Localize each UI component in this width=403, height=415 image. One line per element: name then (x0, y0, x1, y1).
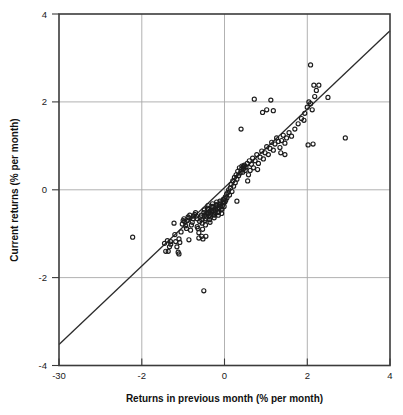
data-point (131, 235, 135, 239)
scatter-chart-figure: -30 -2 0 2 4 4 2 0 -2 -4 Returns in prev… (0, 0, 403, 415)
chart-canvas: -30 -2 0 2 4 4 2 0 -2 -4 Returns in prev… (0, 0, 403, 415)
data-point (252, 97, 256, 101)
data-point (251, 166, 255, 170)
data-point (184, 226, 188, 230)
data-point (189, 228, 193, 232)
data-point (314, 88, 318, 92)
y-tick-label-1: -2 (39, 272, 47, 283)
data-point (256, 161, 260, 165)
data-point (179, 230, 183, 234)
data-point (317, 83, 321, 87)
x-tick-label-3: 2 (305, 370, 310, 381)
data-point (271, 109, 275, 113)
data-point (306, 143, 310, 147)
data-point (283, 153, 287, 157)
data-point (256, 167, 260, 171)
data-point (172, 221, 176, 225)
data-point (261, 110, 265, 114)
data-point (235, 199, 239, 203)
data-point (278, 146, 282, 150)
data-point (309, 63, 313, 67)
x-tick-label-2: 0 (222, 370, 227, 381)
data-point (311, 142, 315, 146)
data-point (312, 83, 316, 87)
x-axis-title: Returns in previous month (% per month) (126, 393, 323, 404)
data-point (246, 179, 250, 183)
x-tick-label-0: -30 (52, 370, 66, 381)
data-point (265, 108, 269, 112)
data-point (202, 289, 206, 293)
y-tick-label-3: 2 (42, 96, 47, 107)
data-point (283, 141, 287, 145)
x-tick-label-4: 4 (387, 370, 392, 381)
data-point (208, 220, 212, 224)
data-point (296, 122, 300, 126)
x-tick-labels: -30 -2 0 2 4 (52, 370, 393, 381)
data-point (293, 127, 297, 131)
data-point (204, 234, 208, 238)
y-tick-label-0: -4 (39, 360, 47, 371)
data-point (187, 238, 191, 242)
data-point (246, 173, 250, 177)
y-axis-title: Current returns (% per month) (9, 118, 20, 261)
data-point (239, 127, 243, 131)
data-point (343, 136, 347, 140)
scatter-points (131, 63, 348, 293)
y-tick-labels: 4 2 0 -2 -4 (39, 9, 47, 372)
x-tick-label-1: -2 (138, 370, 146, 381)
data-point (310, 108, 314, 112)
grid-lines (59, 14, 390, 366)
y-tick-label-4: 4 (42, 9, 47, 20)
data-point (175, 245, 179, 249)
data-point (313, 95, 317, 99)
data-point (289, 134, 293, 138)
data-point (285, 136, 289, 140)
data-point (279, 151, 283, 155)
data-point (201, 227, 205, 231)
y-tick-label-2: 0 (42, 184, 47, 195)
data-point (326, 95, 330, 99)
